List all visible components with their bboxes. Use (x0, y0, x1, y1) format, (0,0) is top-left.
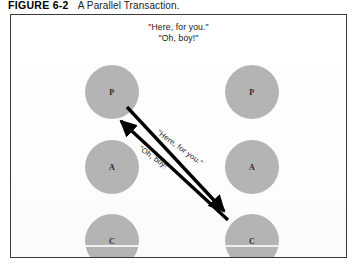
scan-seam (85, 245, 139, 247)
node-label: C (249, 236, 255, 245)
node-left-adult: A (85, 140, 139, 194)
node-label: A (109, 162, 115, 171)
node-label: A (249, 162, 255, 171)
node-right-parent: P (225, 65, 279, 119)
figure-number: FIGURE 6-2 (8, 0, 69, 9)
figure-caption: FIGURE 6-2A Parallel Transaction. (8, 0, 180, 9)
node-label: P (109, 87, 114, 96)
node-left-parent: P (85, 65, 139, 119)
pac-grid: P A C P A C (11, 15, 346, 257)
figure-frame: "Here, for you." "Oh, boy!" P A C P A C (10, 14, 347, 258)
node-right-adult: A (225, 140, 279, 194)
node-left-child: C (85, 214, 139, 258)
scan-seam (225, 245, 279, 247)
figure-caption-text: A Parallel Transaction. (78, 0, 180, 9)
node-right-child: C (225, 214, 279, 258)
node-label: C (109, 236, 115, 245)
node-label: P (249, 87, 254, 96)
